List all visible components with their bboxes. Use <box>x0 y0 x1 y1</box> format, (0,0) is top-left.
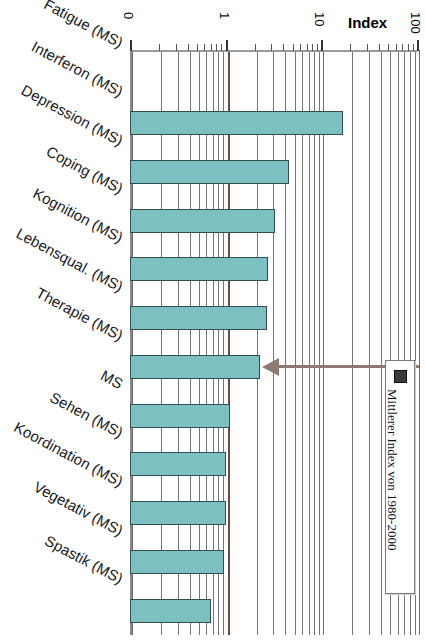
axis-tick-minor <box>176 44 177 51</box>
bar <box>130 355 260 379</box>
gridline <box>218 50 219 635</box>
gridline <box>178 50 179 635</box>
axis-tick-minor <box>312 44 313 51</box>
axis-tick-minor <box>379 44 380 51</box>
axis-rule <box>130 50 417 52</box>
gridline <box>213 50 214 635</box>
axis-tick-label: 10 <box>312 12 327 26</box>
bar <box>130 257 268 281</box>
legend-box: Mittlerer Index von 1980-2000 <box>385 360 415 594</box>
axis-tick-minor <box>388 44 389 51</box>
gridline <box>352 50 353 635</box>
axis-tick-major <box>226 40 228 51</box>
gridline <box>369 50 370 635</box>
arrow-head-icon <box>262 358 279 376</box>
axis-tick-major <box>130 40 132 51</box>
gridline <box>257 50 258 635</box>
legend-label: Mittlerer Index von 1980-2000 <box>384 389 400 550</box>
axis-tick-minor <box>413 44 414 51</box>
axis-tick-minor <box>367 44 368 51</box>
axis-tick-minor <box>283 44 284 51</box>
axis-tick-minor <box>300 44 301 51</box>
axis-tick-minor <box>216 44 217 51</box>
axis-tick-minor <box>211 44 212 51</box>
gridline <box>228 50 230 635</box>
bar <box>130 404 230 428</box>
gridline <box>199 50 200 635</box>
axis-tick-minor <box>350 44 351 51</box>
axis-tick-minor <box>293 44 294 51</box>
gridline <box>302 50 303 635</box>
gridline <box>323 50 324 635</box>
bar <box>130 501 226 525</box>
gridline <box>381 50 382 635</box>
gridline <box>190 50 191 635</box>
gridline <box>314 50 315 635</box>
gridline <box>309 50 310 635</box>
axis-tick-minor <box>317 44 318 51</box>
gridline <box>295 50 296 635</box>
gridline <box>223 50 224 635</box>
bar <box>130 550 224 574</box>
bar <box>130 599 211 623</box>
chart-root: 0110100 Index Fatigue (MS)Interferon (MS… <box>0 0 425 644</box>
gridline <box>132 50 133 635</box>
gridline <box>285 50 286 635</box>
gridline <box>161 50 162 635</box>
axis-tick-minor <box>402 44 403 51</box>
plot-area <box>130 50 417 635</box>
axis-tick-minor <box>188 44 189 51</box>
bar <box>130 452 226 476</box>
axis-tick-minor <box>204 44 205 51</box>
axis-tick-major <box>417 40 419 51</box>
axis-tick-major <box>321 40 323 51</box>
axis-tick-label: 0 <box>121 12 136 19</box>
legend-swatch-icon <box>394 370 407 383</box>
axis-tick-minor <box>159 44 160 51</box>
bar <box>130 306 267 330</box>
axis-tick-label: 1 <box>217 12 232 19</box>
bar <box>130 209 275 233</box>
axis-tick-label: 100 <box>408 12 423 34</box>
gridline <box>206 50 207 635</box>
axis-tick-minor <box>408 44 409 51</box>
axis-title: Index <box>348 14 387 31</box>
gridline <box>319 50 320 635</box>
bar <box>130 111 343 135</box>
axis-tick-minor <box>307 44 308 51</box>
gridline <box>419 50 420 635</box>
axis-tick-minor <box>197 44 198 51</box>
gridline <box>273 50 274 635</box>
axis-tick-minor <box>255 44 256 51</box>
axis-tick-minor <box>396 44 397 51</box>
bar <box>130 160 289 184</box>
axis-tick-minor <box>221 44 222 51</box>
axis-tick-minor <box>271 44 272 51</box>
